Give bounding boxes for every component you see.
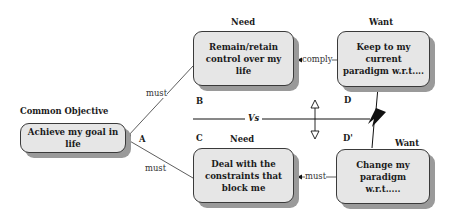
- want-d-heading: Want: [369, 17, 393, 27]
- need-b-heading: Need: [231, 17, 255, 27]
- comply-label: comply: [302, 54, 332, 64]
- want-d-prime-heading: Want: [395, 138, 419, 148]
- objective-heading: Common Objective: [20, 106, 108, 116]
- letter-a: A: [139, 134, 146, 144]
- need-c-heading: Need: [230, 134, 254, 144]
- want-d-text: Keep to my current paradigm w.r.t....: [342, 41, 425, 77]
- must-label-a-b: must: [146, 88, 167, 98]
- vs-label: Vs: [245, 113, 262, 123]
- letter-c: C: [196, 133, 203, 143]
- want-d-box: Keep to my current paradigm w.r.t....: [337, 31, 430, 87]
- need-b-text: Remain/retain control over my life: [198, 41, 289, 77]
- need-c-box: Deal with the constraints that block me: [193, 148, 294, 203]
- need-c-text: Deal with the constraints that block me: [198, 158, 289, 194]
- letter-d: D: [344, 95, 351, 105]
- want-d-prime-text: Change my paradigm w.r.t.....: [341, 159, 425, 195]
- objective-box: Achieve my goal in life: [20, 123, 126, 153]
- objective-text: Achieve my goal in life: [25, 126, 121, 150]
- letter-b: B: [196, 96, 203, 106]
- letter-d-prime: D': [343, 133, 353, 143]
- must-label-c-d-prime: must: [305, 171, 326, 181]
- want-d-prime-box: Change my paradigm w.r.t.....: [336, 149, 430, 204]
- must-label-a-c: must: [145, 163, 166, 173]
- need-b-box: Remain/retain control over my life: [193, 31, 294, 86]
